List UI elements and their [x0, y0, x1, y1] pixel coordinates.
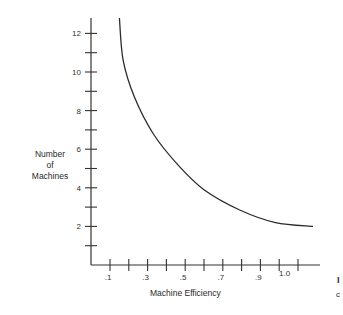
y-tick-label: 2	[77, 222, 82, 231]
y-tick-label: 4	[77, 184, 82, 193]
y-axis-label-line-3: Machines	[20, 171, 80, 182]
y-tick-label: 10	[72, 68, 81, 77]
x-tick-label: .1	[105, 273, 112, 282]
y-axis-label-line-2: of	[20, 160, 80, 171]
x-tick-label: .3	[142, 273, 149, 282]
x-tick-label: 1.0	[279, 269, 291, 278]
y-tick-label: 8	[77, 107, 82, 116]
x-tick-label: .9	[255, 273, 262, 282]
y-axis-label: Number of Machines	[20, 149, 80, 182]
x-tick-label: .5	[180, 273, 187, 282]
x-axis-label: Machine Efficiency	[150, 288, 221, 298]
data-line	[119, 18, 313, 226]
y-axis-label-line-1: Number	[20, 149, 80, 160]
x-tick-label: .7	[217, 273, 224, 282]
cropped-edge-text: I	[337, 275, 340, 285]
y-tick-label: 12	[72, 29, 81, 38]
cropped-edge-text: c	[336, 290, 340, 299]
